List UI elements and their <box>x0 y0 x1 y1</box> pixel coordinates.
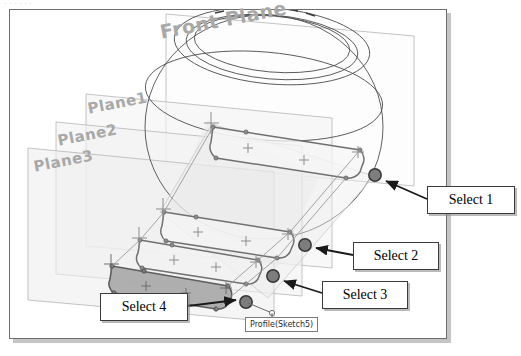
callout-select-1: Select 1 <box>427 186 515 214</box>
entity-tooltip-profile-sketch5: Profile(Sketch5) <box>245 317 318 332</box>
callout-select-4: Select 4 <box>100 293 188 321</box>
cad-screenshot-stage: ······ <box>0 0 521 356</box>
callout-select-3: Select 3 <box>322 281 408 309</box>
callout-select-2: Select 2 <box>353 242 439 270</box>
scan-artifact-text: ······ <box>4 0 124 6</box>
